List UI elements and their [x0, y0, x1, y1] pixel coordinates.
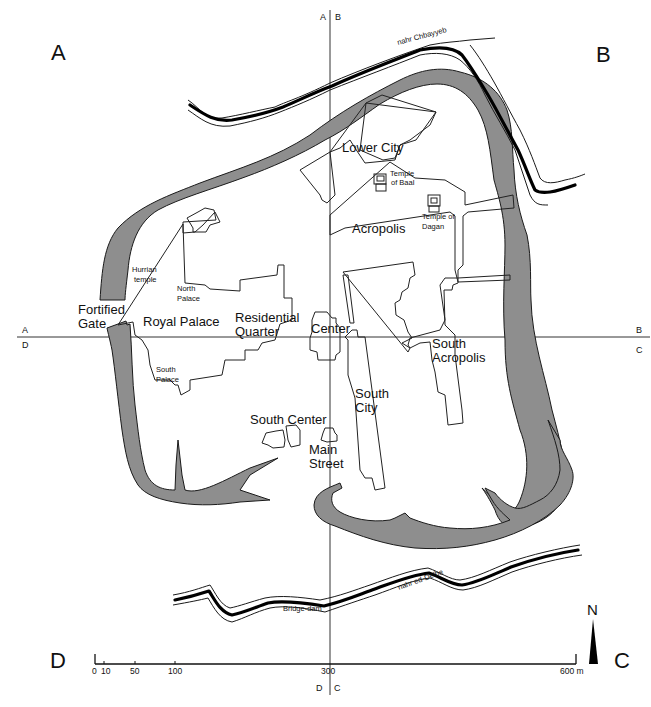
north-arrow-label: N: [587, 601, 598, 618]
scale-tick-600: 600 m: [560, 666, 584, 676]
rampart: [100, 69, 573, 548]
zone-north-palace: [183, 208, 220, 233]
label-hurrian-temple-2: temple: [134, 275, 157, 284]
label-south-city-2: City: [355, 400, 378, 415]
grid-label-right-lower: C: [636, 345, 643, 355]
scale-tick-100: 100: [168, 666, 182, 676]
quadrant-letters: A B C D: [50, 40, 630, 673]
label-south-center: South Center: [250, 412, 327, 427]
grid-label-left-upper: A: [22, 325, 28, 335]
zone-south-center-east: [286, 425, 300, 447]
label-acropolis: Acropolis: [352, 221, 406, 236]
label-south-palace-2: Palace: [156, 375, 179, 384]
grid-label-right-upper: B: [636, 325, 642, 335]
label-main-street-2: Street: [309, 456, 344, 471]
label-south-palace-1: South: [156, 365, 176, 374]
scale-tick-10: 10: [101, 666, 111, 676]
grid-label-bottom-left: D: [316, 683, 323, 693]
river-south: [173, 545, 582, 622]
label-residential-quarter-1: Residential: [235, 310, 299, 325]
label-north-palace-2: Palace: [177, 294, 200, 303]
grid-label-left-lower: D: [22, 340, 29, 350]
river-south-bank-outer: [173, 545, 580, 608]
label-bridge-dam: Bridge-dam: [283, 604, 322, 613]
label-temple-of-baal-1: Temple: [390, 169, 414, 178]
label-residential-quarter-2: Quarter: [235, 324, 280, 339]
label-temple-of-dagan-1: Temple of: [422, 212, 455, 221]
grid-label-bottom-right: C: [334, 683, 341, 693]
zone-south-city-strip-north: [343, 275, 354, 323]
zone-east-quarter: [343, 262, 415, 352]
label-royal-palace: Royal Palace: [143, 314, 220, 329]
north-arrow-icon: [589, 619, 598, 664]
quadrant-label-c: C: [614, 648, 630, 673]
label-south-city-1: South: [355, 386, 389, 401]
label-south-acropolis-2: Acropolis: [432, 350, 486, 365]
temple-of-dagan-plan: [428, 195, 440, 212]
site-plan-map: A B C D A B A D B C D C nahr Chbayyeb na…: [0, 0, 651, 707]
label-fortified-gate-1: Fortified: [78, 302, 125, 317]
scale-tick-300: 300: [321, 666, 335, 676]
label-hurrian-temple-1: Hurrian: [132, 265, 157, 274]
scale-tick-50: 50: [130, 666, 140, 676]
north-arrow: N: [587, 601, 598, 664]
label-north-palace-1: North: [177, 284, 195, 293]
zone-south-center-west: [262, 430, 285, 448]
zone-main-street: [321, 428, 337, 442]
zone-center: [310, 312, 340, 360]
quadrant-label-a: A: [51, 40, 66, 65]
quadrant-label-d: D: [50, 648, 66, 673]
label-main-street-1: Main: [309, 442, 337, 457]
label-temple-of-dagan-2: Dagan: [422, 222, 444, 231]
scale-tick-0: 0: [92, 666, 97, 676]
label-fortified-gate-2: Gate: [78, 316, 106, 331]
label-temple-of-baal-2: of Baal: [391, 178, 415, 187]
scale-bar: 0 10 50 100 300 600 m: [92, 654, 584, 676]
grid-label-top-left: A: [320, 12, 326, 22]
temple-of-baal-plan: [374, 174, 386, 191]
label-lower-city: Lower City: [342, 140, 404, 155]
label-south-acropolis-1: South: [432, 336, 466, 351]
quadrant-label-b: B: [596, 42, 611, 67]
grid-label-top-right: B: [335, 12, 341, 22]
label-center: Center: [311, 321, 351, 336]
